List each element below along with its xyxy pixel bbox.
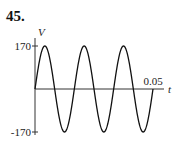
y-axis-label: V (38, 26, 46, 38)
x-tick-label: 0.05 (143, 75, 163, 87)
y-tick-label-max: 170 (15, 40, 32, 52)
chart: 45. V t 170 -170 0.05 (0, 0, 191, 148)
x-axis-label: t (168, 83, 172, 95)
y-tick-label-min: -170 (11, 126, 32, 138)
problem-number: 45. (6, 8, 25, 24)
